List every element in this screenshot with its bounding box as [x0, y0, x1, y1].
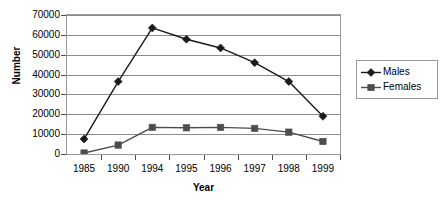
x-axis-tick-mark [272, 155, 273, 160]
y-axis-tick-mark [61, 154, 66, 155]
x-axis-tick-mark [306, 155, 307, 160]
data-point-females [320, 138, 326, 144]
legend-marker-square-icon [360, 80, 382, 93]
legend-label: Males [382, 66, 410, 77]
line-chart-figure: Number 700006000050000400003000020000100… [0, 0, 448, 211]
data-point-females [81, 150, 87, 154]
data-point-females [217, 124, 223, 130]
y-axis-tick-mark [61, 55, 66, 56]
x-axis-tick-label: 1990 [107, 163, 129, 174]
y-axis-tick-mark [61, 114, 66, 115]
x-axis-tick-label: 1994 [141, 163, 163, 174]
x-axis-tick-label: 1997 [244, 163, 266, 174]
data-point-females [286, 129, 292, 135]
y-axis-tick-labels: 700006000050000400003000020000100000 [16, 0, 60, 211]
plot-series-layer [67, 15, 340, 154]
legend-label: Females [382, 81, 421, 92]
data-point-males [251, 59, 259, 67]
data-point-males [148, 24, 156, 32]
chart-legend: MalesFemales [356, 60, 438, 99]
x-axis-tick-label: 1985 [73, 163, 95, 174]
y-axis-tick-label: 10000 [16, 129, 60, 139]
x-axis-tick-label: 1998 [278, 163, 300, 174]
y-axis-tick-label: 60000 [16, 30, 60, 40]
x-axis-tick-mark [169, 155, 170, 160]
y-axis-tick-label: 0 [16, 149, 60, 159]
legend-marker-diamond-icon [360, 65, 382, 78]
x-axis-tick-mark [340, 155, 341, 160]
y-axis-tick-mark [61, 75, 66, 76]
data-point-females [149, 124, 155, 130]
data-point-females [251, 125, 257, 131]
y-axis-tick-label: 70000 [16, 10, 60, 20]
data-point-females [183, 125, 189, 131]
x-axis-tick-mark [204, 155, 205, 160]
x-axis-tick-mark [135, 155, 136, 160]
y-axis-tick-label: 30000 [16, 89, 60, 99]
y-axis-tick-label: 20000 [16, 109, 60, 119]
x-axis-title: Year [66, 182, 341, 193]
data-point-males [80, 135, 88, 143]
y-axis-tick-label: 40000 [16, 70, 60, 80]
x-axis-tick-label: 1995 [175, 163, 197, 174]
legend-item-females: Females [360, 79, 433, 94]
y-axis-tick-label: 50000 [16, 50, 60, 60]
legend-item-males: Males [360, 64, 433, 79]
data-point-males [217, 44, 225, 52]
x-axis-tick-label: 1999 [312, 163, 334, 174]
data-point-males [114, 78, 122, 86]
x-axis-tick-label: 1996 [209, 163, 231, 174]
y-axis-tick-mark [61, 94, 66, 95]
x-axis-tick-mark [238, 155, 239, 160]
y-axis-tick-mark [61, 134, 66, 135]
y-axis-tick-mark [61, 15, 66, 16]
data-point-males [182, 35, 190, 43]
plot-area [66, 14, 341, 155]
y-axis-tick-mark [61, 35, 66, 36]
x-axis-tick-mark [101, 155, 102, 160]
data-point-females [115, 142, 121, 148]
